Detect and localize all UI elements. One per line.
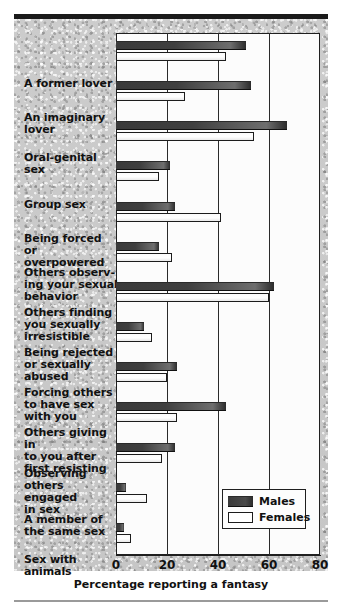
bar-males-10 xyxy=(116,402,226,411)
category-label-line: irresistible xyxy=(24,331,120,343)
bar-males-3 xyxy=(116,121,287,130)
bar-males-5 xyxy=(116,202,175,211)
category-labels: A former loverAn imaginaryloverOral-geni… xyxy=(24,33,116,555)
bar-females-12 xyxy=(116,494,147,503)
bar-males-11 xyxy=(116,443,175,452)
category-label-line: Others giving in xyxy=(24,427,120,451)
bar-males-13 xyxy=(116,523,124,532)
legend-label-females: Females xyxy=(259,511,310,524)
bar-females-10 xyxy=(116,413,177,422)
category-label: Others observ-ing your sexualbehavior xyxy=(24,267,120,303)
bar-males-12 xyxy=(116,483,126,492)
bar-females-5 xyxy=(116,213,221,222)
bar-females-13 xyxy=(116,534,131,543)
bar-females-11 xyxy=(116,454,162,463)
male-swatch-icon xyxy=(228,496,253,507)
bar-females-6 xyxy=(116,253,172,262)
gridline-60 xyxy=(269,33,270,555)
x-axis-line xyxy=(116,555,321,556)
bar-males-7 xyxy=(116,282,274,291)
bar-males-4 xyxy=(116,161,170,170)
x-tick-40: 40 xyxy=(210,558,227,572)
category-label: An imaginarylover xyxy=(24,112,120,136)
bar-males-1 xyxy=(116,41,246,50)
category-label: A former lover xyxy=(24,78,120,90)
category-label-line: A member of xyxy=(24,514,120,526)
x-tick-0: 0 xyxy=(112,558,120,572)
category-label-line: with you xyxy=(24,411,120,423)
bar-males-6 xyxy=(116,242,159,251)
bar-females-4 xyxy=(116,172,159,181)
category-label-line: the same sex xyxy=(24,526,120,538)
x-tick-80: 80 xyxy=(312,558,329,572)
category-label-line: others engaged xyxy=(24,480,120,504)
category-label: Sex withanimals xyxy=(24,554,120,578)
legend-item-males: Males xyxy=(228,495,295,508)
category-label-line: lover xyxy=(24,124,120,136)
bar-males-8 xyxy=(116,322,144,331)
category-label-line: Group sex xyxy=(24,199,120,211)
category-label-line: Being forced xyxy=(24,233,120,245)
category-label: Observingothers engagedin sex xyxy=(24,468,120,516)
bar-females-9 xyxy=(116,373,167,382)
bottom-rule xyxy=(14,600,328,602)
category-label: Others findingyou sexuallyirresistible xyxy=(24,307,120,343)
legend: Males Females xyxy=(222,489,306,529)
category-label: Group sex xyxy=(24,199,120,211)
category-label-line: behavior xyxy=(24,291,120,303)
female-swatch-icon xyxy=(228,512,253,523)
x-tick-20: 20 xyxy=(159,558,176,572)
legend-item-females: Females xyxy=(228,511,310,524)
bar-females-7 xyxy=(116,293,269,302)
bar-males-9 xyxy=(116,362,177,371)
bar-females-8 xyxy=(116,333,152,342)
bar-females-1 xyxy=(116,52,226,61)
bar-males-2 xyxy=(116,81,251,90)
x-tick-60: 60 xyxy=(261,558,278,572)
category-label-line: animals xyxy=(24,566,120,578)
category-label: Being rejectedor sexuallyabused xyxy=(24,347,120,383)
figure: A former loverAn imaginaryloverOral-geni… xyxy=(0,0,342,615)
category-label-line: abused xyxy=(24,371,120,383)
category-label: A member ofthe same sex xyxy=(24,514,120,538)
category-label: Oral-genitalsex xyxy=(24,152,120,176)
category-label-line: Observing xyxy=(24,468,120,480)
x-axis-title: Percentage reporting a fantasy xyxy=(0,578,342,591)
bar-females-2 xyxy=(116,92,185,101)
bar-females-3 xyxy=(116,132,254,141)
category-label-line: A former lover xyxy=(24,78,120,90)
category-label: Being forcedor overpowered xyxy=(24,233,120,269)
category-label: Forcing othersto have sexwith you xyxy=(24,387,120,423)
legend-label-males: Males xyxy=(259,495,295,508)
category-label-line: sex xyxy=(24,164,120,176)
